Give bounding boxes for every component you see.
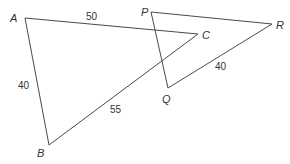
- vertex-label-a: A: [9, 12, 17, 24]
- side-label-bc: 55: [110, 104, 122, 115]
- vertex-label-r: R: [276, 19, 284, 31]
- vertex-label-b: B: [37, 147, 44, 159]
- triangles-diagram: A B C 50 40 55 P Q R 40: [0, 0, 290, 164]
- triangle-abc: A B C 50 40 55: [9, 11, 210, 159]
- side-bc: [49, 34, 198, 145]
- side-label-qr: 40: [215, 61, 227, 72]
- side-qr: [168, 24, 272, 88]
- vertex-label-q: Q: [162, 93, 171, 105]
- vertex-label-c: C: [202, 29, 210, 41]
- side-pq: [151, 12, 168, 88]
- side-ac: [25, 18, 198, 34]
- side-label-ac: 50: [86, 11, 98, 22]
- vertex-label-p: P: [141, 6, 149, 18]
- side-pr: [151, 12, 272, 24]
- triangle-pqr: P Q R 40: [141, 6, 284, 105]
- side-label-ab: 40: [18, 80, 30, 91]
